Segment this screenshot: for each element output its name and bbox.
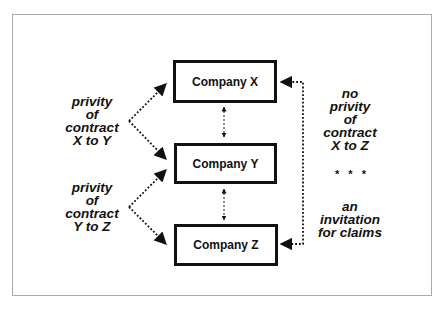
no-privity-xz-label: no privity of contract X to Z (310, 87, 390, 152)
separator-stars: * * * (312, 168, 392, 180)
label-line: for claims (305, 226, 395, 239)
company-x-box: Company X (173, 60, 277, 103)
label-line: X to Y (52, 134, 132, 147)
company-z-box: Company Z (174, 224, 278, 266)
invitation-for-claims-label: an invitation for claims (305, 200, 395, 239)
privity-yz-label: privity of contract Y to Z (52, 181, 132, 233)
privity-xy-arrows (129, 84, 166, 159)
company-z-label: Company Z (193, 238, 258, 252)
company-y-box: Company Y (174, 143, 277, 184)
company-x-label: Company X (192, 75, 258, 89)
label-line: X to Z (310, 139, 390, 152)
company-y-label: Company Y (193, 157, 259, 171)
label-line: Y to Z (52, 220, 132, 233)
xz-bracket-arrow (281, 82, 303, 244)
privity-yz-arrows (129, 170, 166, 244)
privity-xy-label: privity of contract X to Y (52, 95, 132, 147)
